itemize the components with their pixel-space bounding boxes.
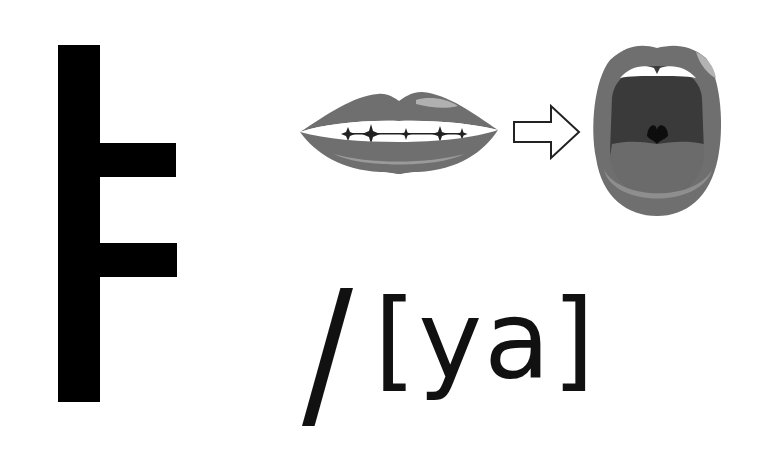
slash-separator: / [302, 268, 353, 436]
romanization-label: [ya] [374, 286, 596, 394]
closed-lips-icon [298, 84, 500, 178]
right-arrow-icon [511, 103, 583, 161]
open-mouth-icon [590, 40, 724, 218]
